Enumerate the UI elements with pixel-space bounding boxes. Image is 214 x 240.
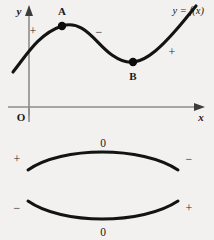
x-axis-arrowhead [194,103,205,111]
graph-panel: y x O y = f(x) A B + − + [8,5,205,123]
function-graph-figure: y x O y = f(x) A B + − + 0 + − 0 − + [0,0,214,240]
sign-mark-middle-minus: − [96,25,103,39]
function-label: y = f(x) [171,5,204,17]
sign-diagram-panel: 0 + − 0 − + [14,137,193,238]
lower-sign-arc [28,201,178,219]
figure-root: y x O y = f(x) A B + − + 0 + − 0 − + [0,0,214,240]
point-a-marker [58,22,66,30]
upper-arc-right-sign: − [186,152,193,166]
sign-mark-right-plus: + [169,45,176,59]
point-b-label: B [129,70,137,82]
lower-arc-right-sign: + [186,201,193,215]
x-axis-label: x [197,111,204,123]
point-b-marker [129,58,137,66]
lower-arc-left-sign: − [14,201,21,215]
point-a-label: A [58,5,66,17]
y-axis-arrowhead [25,5,33,16]
origin-label: O [17,111,26,123]
sign-mark-left-plus: + [30,24,37,38]
upper-arc-left-sign: + [14,152,21,166]
y-axis-label: y [15,5,22,17]
function-curve [13,6,196,72]
lower-arc-zero-label: 0 [100,226,106,238]
upper-arc-zero-label: 0 [100,137,106,149]
upper-sign-arc [28,152,178,170]
